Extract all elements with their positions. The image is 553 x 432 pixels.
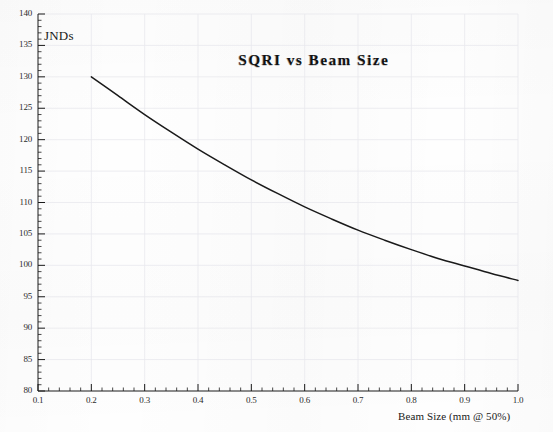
x-axis-label: Beam Size (mm @ 50%) <box>398 410 510 422</box>
x-tick-label: 0.4 <box>183 395 213 405</box>
x-tick-label: 0.6 <box>290 395 320 405</box>
y-tick-label: 135 <box>6 39 32 49</box>
x-tick-label: 0.3 <box>130 395 160 405</box>
y-tick-label: 80 <box>6 385 32 395</box>
x-tick-label: 0.9 <box>450 395 480 405</box>
x-tick-label: 0.1 <box>23 395 53 405</box>
y-axis-label: JNDs <box>44 28 74 44</box>
y-tick-label: 90 <box>6 322 32 332</box>
y-tick-label: 125 <box>6 102 32 112</box>
chart-page: 80859095100105110115120125130135140 0.10… <box>0 0 553 432</box>
y-tick-label: 85 <box>6 354 32 364</box>
x-tick-label: 0.8 <box>396 395 426 405</box>
x-tick-label: 0.2 <box>76 395 106 405</box>
x-tick-label: 0.7 <box>343 395 373 405</box>
y-tick-label: 120 <box>6 134 32 144</box>
chart-title: SQRI vs Beam Size <box>204 52 424 69</box>
grid-lines <box>38 14 518 391</box>
y-tick-label: 115 <box>6 165 32 175</box>
y-tick-label: 140 <box>6 8 32 18</box>
y-tick-label: 130 <box>6 71 32 81</box>
y-tick-label: 110 <box>6 197 32 207</box>
y-tick-label: 95 <box>6 291 32 301</box>
x-tick-label: 1.0 <box>503 395 533 405</box>
y-tick-label: 100 <box>6 259 32 269</box>
x-tick-label: 0.5 <box>236 395 266 405</box>
y-tick-label: 105 <box>6 228 32 238</box>
